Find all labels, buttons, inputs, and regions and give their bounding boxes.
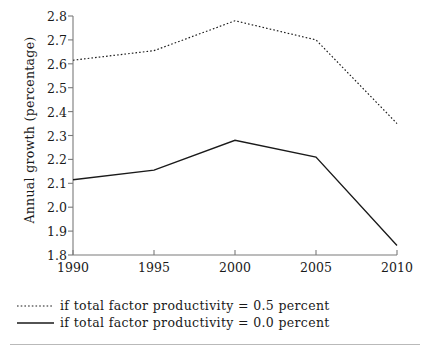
legend-item-dotted: if total factor productivity = 0.5 perce… (16, 297, 416, 314)
footer-divider (10, 344, 420, 345)
legend-label: if total factor productivity = 0.0 perce… (60, 315, 330, 330)
dotted-line-key-icon (16, 300, 60, 312)
x-axis-ticks (73, 250, 397, 255)
series-line-solid (73, 140, 397, 245)
legend-item-solid: if total factor productivity = 0.0 perce… (16, 314, 416, 331)
y-axis-ticks (68, 16, 73, 255)
series-line-dotted (73, 21, 397, 124)
plot-area (73, 16, 397, 255)
figure-container: Annual growth (percentage) 2.8 2.7 2.6 2… (0, 0, 430, 353)
chart-legend: if total factor productivity = 0.5 perce… (16, 297, 416, 331)
legend-label: if total factor productivity = 0.5 perce… (60, 298, 330, 313)
solid-line-key-icon (16, 317, 60, 329)
